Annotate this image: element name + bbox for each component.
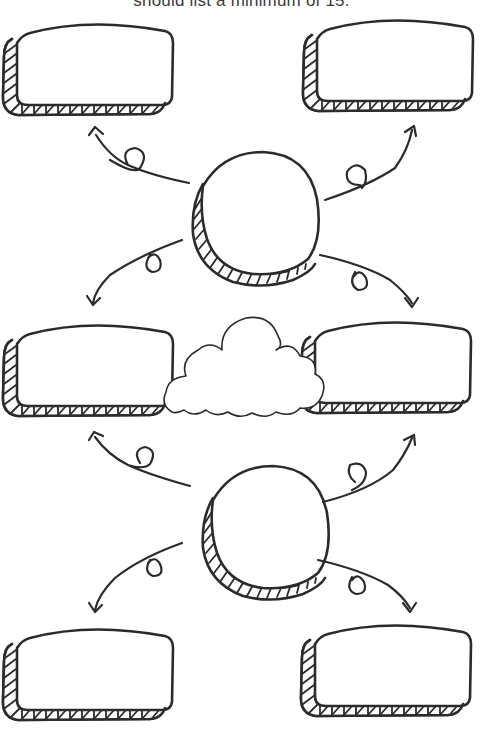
box-middle-right — [301, 322, 471, 413]
circle-node-bottom — [203, 466, 329, 600]
box-bottom-right — [301, 625, 471, 716]
box-middle-left — [3, 325, 173, 416]
arrow-mid-right-from-bottom — [323, 438, 412, 502]
box-top-right — [303, 20, 473, 111]
mind-map-diagram — [0, 0, 483, 729]
arrow-mid-right-from-top — [320, 255, 412, 303]
arrow-top-left-head — [89, 127, 103, 135]
arrow-top-right — [325, 130, 412, 200]
box-bottom-left — [3, 629, 173, 720]
arrow-top-left — [96, 135, 189, 183]
arrow-mid-left-from-top — [93, 240, 182, 303]
circle-node-top — [193, 152, 319, 286]
arrow-bottom-right — [318, 560, 410, 608]
box-top-left — [3, 24, 173, 115]
cloud-shape — [164, 317, 324, 416]
arrow-mid-left-from-bottom — [95, 437, 190, 486]
arrow-bottom-left — [95, 543, 182, 610]
